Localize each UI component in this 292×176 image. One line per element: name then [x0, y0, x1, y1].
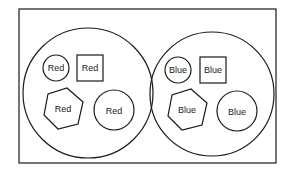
red-set: Red Red Red Red	[23, 28, 153, 158]
blue-small-circle-label: Blue	[169, 65, 187, 75]
red-large-circle-label: Red	[106, 106, 123, 116]
blue-set-container-circle	[150, 32, 274, 156]
diagram-canvas: Red Red Red Red Blue Blue Blue Blue	[0, 0, 292, 176]
blue-square-label: Blue	[204, 65, 222, 75]
red-square-label: Red	[82, 63, 99, 73]
blue-large-circle-label: Blue	[228, 107, 246, 117]
outer-frame	[19, 9, 276, 163]
red-hexagon-label: Red	[55, 104, 72, 114]
red-small-circle-label: Red	[48, 63, 65, 73]
blue-hexagon-label: Blue	[178, 105, 196, 115]
red-set-container-circle	[23, 28, 153, 158]
blue-set: Blue Blue Blue Blue	[150, 32, 274, 156]
